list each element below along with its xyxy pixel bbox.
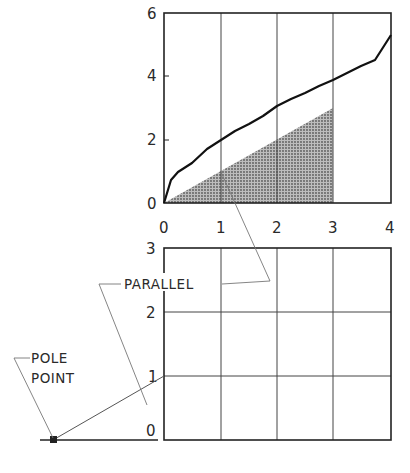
x-label: 0 <box>159 219 169 237</box>
x-label: 1 <box>216 219 226 237</box>
parallel-label: PARALLEL <box>124 276 194 292</box>
y-label: 4 <box>147 67 157 85</box>
pole-point-diagram: 6 4 2 0 0 1 2 3 4 3 2 1 0 POLE POINT <box>0 0 410 473</box>
pole-label: POLE <box>31 350 68 366</box>
x-label: 3 <box>328 219 338 237</box>
y-label: 6 <box>147 5 157 23</box>
x-label: 2 <box>272 219 282 237</box>
y-label: 0 <box>146 422 156 440</box>
y-label: 1 <box>148 368 158 386</box>
shaded-area <box>164 108 333 203</box>
bottom-chart: 3 2 1 0 <box>146 240 391 440</box>
y-label: 2 <box>146 304 156 322</box>
point-label: POINT <box>31 370 75 386</box>
pole-point-marker <box>50 436 57 443</box>
y-label: 0 <box>147 195 157 213</box>
x-label: 4 <box>385 219 395 237</box>
parallel-annotation: PARALLEL <box>99 172 270 405</box>
y-label: 3 <box>146 240 156 258</box>
pole-point-annotation: POLE POINT <box>14 350 75 438</box>
y-label: 2 <box>147 131 157 149</box>
top-chart: 6 4 2 0 0 1 2 3 4 <box>147 5 395 237</box>
